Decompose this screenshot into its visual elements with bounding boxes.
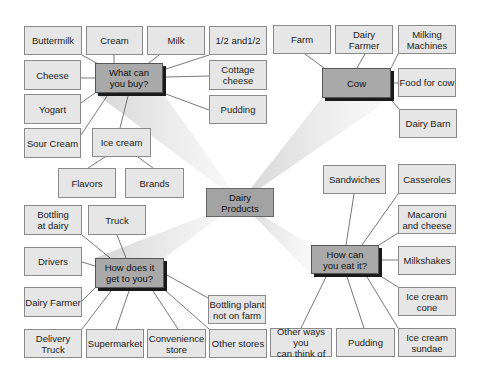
- node-label: Milkshakes: [404, 255, 451, 266]
- connector-cow-milking-machines: [391, 54, 398, 68]
- node-supermarket[interactable]: Supermarket: [86, 329, 144, 358]
- node-label: Truck: [105, 215, 128, 226]
- node-farm[interactable]: Farm: [273, 25, 331, 54]
- connector-get-dairy-farmer: [82, 288, 95, 301]
- node-cream[interactable]: Cream: [86, 26, 143, 55]
- node-milking-machines[interactable]: Milking Machines: [398, 25, 456, 54]
- node-label: Food for cow: [400, 77, 455, 88]
- node-label: Ice cream cone: [406, 291, 448, 313]
- hub-node-get[interactable]: How does it get to you?: [95, 258, 164, 288]
- node-macaroni-and-cheese[interactable]: Macaroni and cheese: [398, 205, 456, 234]
- node-label: Dairy Farmer: [25, 297, 80, 308]
- connector-buy-brands: [138, 157, 153, 168]
- node-bottling-at-dairy[interactable]: Bottling at dairy: [24, 205, 82, 235]
- node-delivery-truck[interactable]: Delivery Truck: [24, 329, 82, 358]
- node-label: Cream: [100, 35, 129, 46]
- node-label: Sandwiches: [329, 174, 380, 185]
- node-label: Farm: [291, 34, 313, 45]
- connector-buy-cottage-cheese: [166, 76, 209, 77]
- node-sour-cream[interactable]: Sour Cream: [24, 128, 81, 158]
- node-label: Other stores: [212, 338, 264, 349]
- node-ice-cream-cone[interactable]: Ice cream cone: [398, 287, 456, 316]
- center-node-dairy-products[interactable]: Dairy Products: [206, 188, 274, 217]
- center-node-label: Dairy Products: [221, 192, 259, 214]
- connector-get-drivers: [82, 262, 95, 266]
- node-label: Dairy Barn: [406, 118, 451, 129]
- connector-buy-milk: [149, 55, 159, 63]
- connector-cow-dairy-barn: [392, 101, 399, 109]
- connector-buy-1-2-and1-2: [166, 55, 209, 69]
- connector-eat-other-ways-you-can-think-of: [301, 277, 326, 328]
- node-ice-cream-sundae[interactable]: Ice cream sundae: [398, 328, 456, 357]
- node-label: Sour Cream: [27, 138, 78, 149]
- node-sandwiches[interactable]: Sandwiches: [323, 165, 386, 194]
- connector-buy-flavors: [88, 157, 105, 168]
- node-ice-cream[interactable]: Ice cream: [92, 128, 151, 157]
- node-dairy-barn[interactable]: Dairy Barn: [399, 109, 457, 138]
- node-label: Bottling at dairy: [37, 209, 69, 231]
- connector-eat-macaroni-and-cheese: [379, 233, 398, 245]
- node-cottage-cheese[interactable]: Cottage cheese: [209, 60, 267, 90]
- node-label: Pudding: [348, 337, 383, 348]
- hub-node-label: What can you buy?: [109, 67, 149, 89]
- hub-node-cow[interactable]: Cow: [322, 68, 391, 98]
- hub-node-buy[interactable]: What can you buy?: [95, 63, 163, 93]
- connector-get-bottling-plant-not-on-farm: [167, 275, 208, 298]
- node-label: Dairy Farmer: [349, 29, 380, 51]
- connector-eat-pudding: [347, 277, 364, 328]
- connector-get-bottling-at-dairy: [82, 235, 110, 258]
- node-label: Macaroni and cheese: [402, 209, 451, 231]
- connector-eat-ice-cream-cone: [382, 277, 398, 287]
- hub-node-eat[interactable]: How can you eat it?: [311, 245, 379, 274]
- node-milk[interactable]: Milk: [147, 26, 205, 55]
- node-label: Buttermilk: [32, 35, 74, 46]
- connector-eat-casseroles: [362, 194, 398, 245]
- node-other-stores[interactable]: Other stores: [209, 329, 267, 358]
- hub-node-label: How does it get to you?: [105, 262, 155, 284]
- node-label: Casseroles: [403, 174, 451, 185]
- hub-node-label: How can you eat it?: [323, 249, 367, 271]
- node-label: Flavors: [71, 178, 102, 189]
- node-label: Bottling plant not on farm: [210, 299, 265, 321]
- node-label: Delivery Truck: [25, 333, 81, 355]
- node-label: 1/2 and1/2: [216, 35, 261, 46]
- node-brands[interactable]: Brands: [125, 168, 184, 198]
- node-dairy-farmer[interactable]: Dairy Farmer: [24, 287, 82, 317]
- node-pudding[interactable]: Pudding: [336, 328, 395, 357]
- connector-eat-ice-cream-sundae: [367, 277, 398, 328]
- connector-get-supermarket: [116, 291, 129, 329]
- node-1-2-and1-2[interactable]: 1/2 and1/2: [209, 26, 267, 55]
- connector-eat-sandwiches: [346, 194, 354, 245]
- node-buttermilk[interactable]: Buttermilk: [24, 26, 82, 55]
- connector-cow-farm: [305, 54, 324, 68]
- node-label: Convenience store: [149, 333, 204, 355]
- node-label: Yogart: [39, 104, 66, 115]
- node-label: Cottage cheese: [221, 64, 254, 86]
- node-cheese[interactable]: Cheese: [24, 60, 81, 90]
- node-label: Drivers: [38, 256, 68, 267]
- node-flavors[interactable]: Flavors: [58, 168, 116, 198]
- node-other-ways-you-can-think-of[interactable]: Other ways you can think of: [270, 328, 332, 357]
- node-label: Ice cream sundae: [406, 332, 448, 354]
- node-label: Milk: [168, 35, 185, 46]
- connector-get-other-stores: [166, 291, 209, 329]
- node-label: Supermarket: [88, 338, 142, 349]
- node-label: Pudding: [221, 104, 256, 115]
- node-pudding[interactable]: Pudding: [209, 95, 267, 124]
- node-convenience-store[interactable]: Convenience store: [147, 329, 206, 358]
- node-label: Other ways you can think of: [271, 326, 331, 359]
- dairy-products-concept-map: Dairy Products ButtermilkCreamMilk1/2 an…: [0, 0, 480, 378]
- connector-cow-dairy-farmer: [357, 54, 365, 68]
- node-label: Cheese: [36, 70, 69, 81]
- node-milkshakes[interactable]: Milkshakes: [398, 246, 456, 275]
- node-label: Ice cream: [101, 137, 143, 148]
- node-yogart[interactable]: Yogart: [24, 94, 81, 124]
- node-label: Milking Machines: [407, 29, 448, 51]
- node-dairy-farmer[interactable]: Dairy Farmer: [335, 25, 393, 54]
- node-food-for-cow[interactable]: Food for cow: [398, 68, 456, 97]
- node-casseroles[interactable]: Casseroles: [398, 164, 456, 194]
- connector-get-convenience-store: [153, 291, 178, 329]
- node-bottling-plant-not-on-farm[interactable]: Bottling plant not on farm: [208, 295, 266, 324]
- node-truck[interactable]: Truck: [88, 205, 146, 235]
- node-drivers[interactable]: Drivers: [24, 247, 82, 276]
